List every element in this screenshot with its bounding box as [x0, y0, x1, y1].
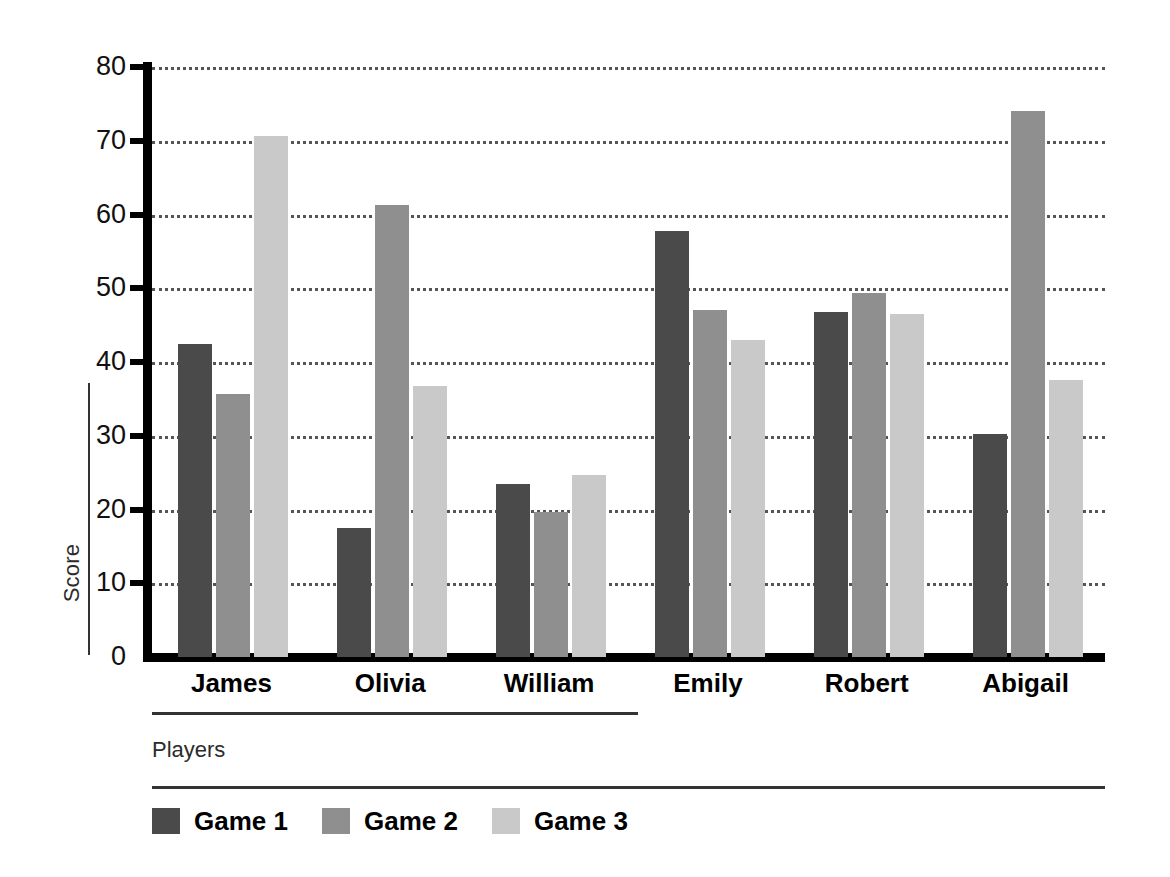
bar — [1049, 380, 1083, 657]
x-axis-title-rule — [152, 712, 638, 715]
bar — [496, 484, 530, 657]
bar — [337, 528, 371, 657]
x-axis-category-label: Robert — [787, 668, 946, 699]
x-axis-category-label: James — [152, 668, 311, 699]
legend-swatch-icon — [152, 808, 180, 834]
legend-swatch-icon — [322, 808, 350, 834]
bar — [890, 314, 924, 657]
bar — [731, 340, 765, 657]
legend-item[interactable]: Game 3 — [492, 806, 628, 837]
bar — [852, 293, 886, 657]
y-axis-tick-label: 10 — [64, 569, 126, 596]
y-axis-tick — [130, 212, 146, 218]
bar — [375, 205, 409, 657]
y-axis-tick-label: 70 — [64, 127, 126, 154]
bar — [216, 394, 250, 657]
bar — [178, 344, 212, 657]
legend: Game 1Game 2Game 3 — [152, 806, 662, 836]
y-axis-tick — [130, 507, 146, 513]
bar — [413, 386, 447, 657]
x-axis-category-label: Emily — [629, 668, 788, 699]
y-axis-tick — [130, 285, 146, 291]
bar-group — [470, 67, 629, 657]
bar — [534, 512, 568, 657]
y-axis-tick-label: 80 — [64, 53, 126, 80]
y-axis-tick — [130, 359, 146, 365]
bar — [814, 312, 848, 657]
y-axis-tick — [130, 580, 146, 586]
y-axis-tick-label: 40 — [64, 348, 126, 375]
legend-item[interactable]: Game 2 — [322, 806, 458, 837]
y-axis-tick — [130, 64, 146, 70]
x-axis-category-label: Olivia — [311, 668, 470, 699]
legend-swatch-icon — [492, 808, 520, 834]
x-axis-category-label: Abigail — [946, 668, 1105, 699]
bar-group — [311, 67, 470, 657]
bar-group — [152, 67, 311, 657]
y-axis-tick — [130, 138, 146, 144]
bar — [1011, 111, 1045, 657]
bar-group — [629, 67, 788, 657]
bar — [973, 434, 1007, 657]
x-axis-title: Players — [152, 737, 225, 763]
bar — [693, 310, 727, 657]
legend-label: Game 3 — [534, 806, 628, 837]
y-axis-tick-label: 0 — [64, 643, 126, 670]
y-axis-tick — [130, 433, 146, 439]
y-axis-tick-label: 60 — [64, 201, 126, 228]
bar — [254, 136, 288, 657]
bar — [655, 231, 689, 657]
y-axis-tick-label: 50 — [64, 274, 126, 301]
x-axis-category-label: William — [470, 668, 629, 699]
bar-group — [787, 67, 946, 657]
legend-rule — [152, 786, 1105, 789]
bar — [572, 475, 606, 657]
y-axis-tick-label: 30 — [64, 422, 126, 449]
plot-bars — [152, 67, 1105, 657]
legend-label: Game 1 — [194, 806, 288, 837]
bar-chart: Score 01020304050607080 JamesOliviaWilli… — [0, 0, 1170, 877]
legend-item[interactable]: Game 1 — [152, 806, 288, 837]
bar-group — [946, 67, 1105, 657]
legend-label: Game 2 — [364, 806, 458, 837]
x-axis-category-labels: JamesOliviaWilliamEmilyRobertAbigail — [152, 668, 1105, 702]
y-axis-tick-label: 20 — [64, 496, 126, 523]
